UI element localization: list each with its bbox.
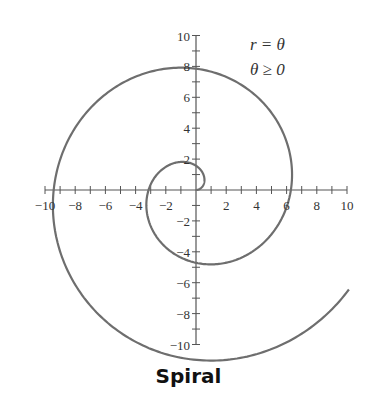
x-tick-label: 10 <box>341 198 354 213</box>
y-tick-label: 4 <box>184 121 191 136</box>
x-tick-label: −2 <box>159 198 173 213</box>
x-tick-label: −8 <box>68 198 82 213</box>
x-tick-label: 8 <box>314 198 321 213</box>
spiral-curve <box>53 68 349 361</box>
y-tick-label: −10 <box>170 338 190 353</box>
x-tick-label: −4 <box>129 198 143 213</box>
y-tick-label: −2 <box>176 214 190 229</box>
chart-caption: Spiral <box>0 364 377 388</box>
y-tick-label: 10 <box>177 29 190 44</box>
x-tick-label: 4 <box>253 198 260 213</box>
x-tick-label: 6 <box>283 198 290 213</box>
equation-line-2: θ ≥ 0 <box>250 60 285 79</box>
x-tick-label: −6 <box>98 198 112 213</box>
y-tick-label: 6 <box>184 90 191 105</box>
equation-line-1: r = θ <box>250 35 285 54</box>
y-tick-label: −6 <box>176 276 190 291</box>
spiral-chart: −10−8−6−4−2246810−10−8−6−4−2246810 r = θ… <box>0 0 377 411</box>
x-tick-label: −10 <box>35 198 55 213</box>
y-tick-label: 2 <box>184 152 191 167</box>
y-tick-label: −8 <box>176 307 190 322</box>
x-tick-label: 2 <box>223 198 230 213</box>
y-tick-label: −4 <box>176 245 190 260</box>
y-tick-label: 8 <box>184 59 191 74</box>
